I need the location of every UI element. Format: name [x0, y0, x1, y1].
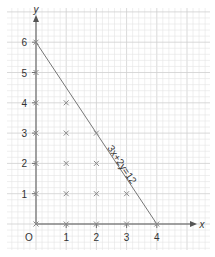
y-tick-label: 3: [21, 128, 27, 139]
y-tick-label: 5: [21, 68, 27, 79]
x-axis-arrow-icon: [190, 221, 197, 227]
y-axis-arrow-icon: [33, 15, 39, 22]
y-tick-label: 2: [21, 158, 27, 169]
origin-label: O: [25, 232, 33, 243]
y-tick-label: 6: [21, 37, 27, 48]
y-axis-label: y: [33, 4, 40, 15]
x-tick-label: 2: [94, 232, 100, 243]
y-tick-label: 1: [21, 189, 27, 200]
graph-chart: 1234123456Oxy 3x+2y=12: [0, 0, 215, 257]
x-tick-label: 4: [154, 232, 160, 243]
x-tick-label: 3: [124, 232, 130, 243]
line-equation-label: 3x+2y=12: [105, 143, 139, 186]
x-axis-label: x: [199, 219, 206, 230]
x-tick-label: 1: [63, 232, 69, 243]
tick-labels: 1234123456Oxy: [21, 4, 205, 243]
y-tick-label: 4: [21, 98, 27, 109]
